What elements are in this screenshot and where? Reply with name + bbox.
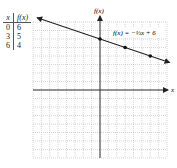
x-axis-label: x: [170, 86, 175, 94]
function-line-start: [37, 18, 100, 39]
equation-label: f(x) = −⅓x + 6: [113, 29, 156, 37]
data-point: [123, 46, 127, 50]
function-line: [100, 39, 170, 63]
y-axis-label: f(x): [94, 7, 104, 15]
data-point: [148, 54, 152, 58]
data-point: [98, 37, 102, 41]
coordinate-graph: f(x) x f(x) = −⅓x + 6: [0, 0, 177, 168]
